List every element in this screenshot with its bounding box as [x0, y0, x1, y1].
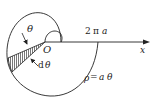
theta-label: θ	[27, 23, 33, 34]
x-axis-label: x	[140, 45, 145, 55]
theta-pointer-arrow-icon	[22, 33, 27, 44]
crossing-2-label: 2	[85, 26, 91, 36]
origin-label: O	[43, 44, 51, 55]
x-axis-arrow-icon	[143, 40, 150, 45]
spiral-diagram: θ O d θ 2 π a x ρ = a θ	[0, 0, 153, 112]
equation-equals: =	[90, 72, 98, 82]
equation-rho: ρ	[83, 73, 90, 83]
dtheta-theta-label: θ	[45, 60, 51, 70]
crossing-a-label: a	[102, 26, 107, 36]
theta-arc-arrow-icon	[52, 34, 60, 42]
dtheta-pointer-arrow-icon	[31, 59, 38, 66]
equation-theta: θ	[107, 72, 113, 82]
spiral-curve-inner	[45, 31, 62, 42]
equation-a: a	[99, 72, 104, 82]
dtheta-d-label: d	[38, 60, 44, 70]
crossing-pi-label: π	[93, 26, 99, 36]
